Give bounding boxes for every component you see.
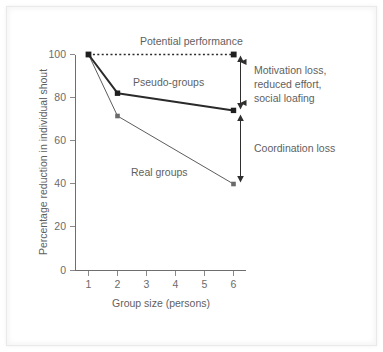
coordination-loss-arrowhead-down — [237, 176, 244, 182]
y-axis-title: Percentage reduction in individual shout — [37, 69, 49, 255]
x-tick-label-5: 5 — [202, 278, 208, 290]
motivation-loss-line-2: reduced effort, — [254, 78, 322, 90]
label-motivation-loss: Motivation loss, reduced effort, social … — [254, 64, 326, 104]
y-tick-label-20: 20 — [54, 220, 66, 232]
x-tick-label-3: 3 — [144, 278, 150, 290]
real-groups-point-2 — [115, 114, 120, 119]
label-real-groups: Real groups — [131, 166, 188, 178]
label-potential-performance: Potential performance — [140, 35, 243, 47]
pseudo-groups-point-6 — [231, 108, 236, 113]
annotation-coordination-loss-arrow — [237, 115, 244, 183]
pseudo-groups-point-2 — [115, 91, 120, 96]
x-tick-label-4: 4 — [173, 278, 179, 290]
label-pseudo-groups: Pseudo-groups — [133, 76, 204, 88]
real-groups-line — [89, 55, 234, 185]
chart-canvas: 100 80 60 40 20 0 1 2 3 4 5 6 Group size… — [0, 0, 383, 352]
x-tick-label-6: 6 — [231, 278, 237, 290]
motivation-loss-arrowhead-down — [237, 103, 244, 109]
x-axis-title: Group size (persons) — [112, 297, 210, 309]
motivation-loss-line-1: Motivation loss, — [254, 64, 326, 76]
motivation-loss-arrowhead-up — [237, 56, 244, 62]
origin-point-100 — [86, 52, 92, 58]
y-tick-label-100: 100 — [48, 48, 66, 60]
label-coordination-loss: Coordination loss — [254, 142, 335, 154]
real-groups-point-6 — [231, 182, 236, 187]
x-tick-label-2: 2 — [115, 278, 121, 290]
potential-point-6 — [231, 52, 237, 58]
y-tick-label-40: 40 — [54, 177, 66, 189]
y-tick-label-80: 80 — [54, 91, 66, 103]
x-tick-labels: 1 2 3 4 5 6 — [86, 278, 237, 290]
x-tick-label-1: 1 — [86, 278, 92, 290]
y-tick-labels: 100 80 60 40 20 0 — [48, 48, 66, 276]
y-tick-label-60: 60 — [54, 134, 66, 146]
annotation-motivation-loss-arrow — [237, 56, 244, 110]
figure-frame: 100 80 60 40 20 0 1 2 3 4 5 6 Group size… — [0, 0, 383, 352]
coordination-loss-arrowhead-up — [237, 115, 244, 121]
y-tick-label-0: 0 — [60, 264, 66, 276]
motivation-loss-line-3: social loafing — [254, 92, 315, 104]
